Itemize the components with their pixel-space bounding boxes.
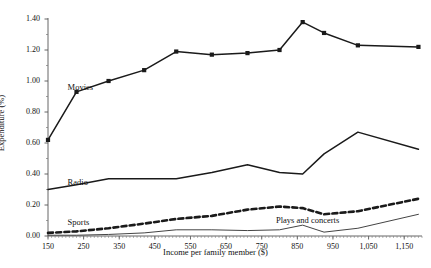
x-tick-label: 650 (206, 242, 246, 251)
y-axis-title: Expenditure (%) (0, 95, 6, 151)
data-point-marker (301, 20, 305, 24)
x-tick-label: 150 (28, 242, 68, 251)
series-label-sports: Sports (68, 217, 90, 227)
plot-area (0, 0, 431, 268)
data-point-marker (106, 79, 110, 83)
x-tick-label: 1,050 (349, 242, 389, 251)
y-tick-label: 1.20 (14, 45, 40, 54)
data-point-marker (322, 31, 326, 35)
axis-lines (48, 18, 422, 236)
data-point-marker (416, 45, 420, 49)
series-line-movies (48, 22, 418, 140)
data-point-marker (245, 51, 249, 55)
x-tick-label: 850 (277, 242, 317, 251)
data-point-marker (142, 68, 146, 72)
x-tick-label: 250 (64, 242, 104, 251)
x-tick-label: 550 (170, 242, 210, 251)
x-tick-label: 350 (99, 242, 139, 251)
data-point-marker (174, 49, 178, 53)
series-label-movies: Movies (68, 82, 94, 92)
y-tick-label: 1.00 (14, 76, 40, 85)
y-tick-label: 0.00 (14, 231, 40, 240)
expenditure-line-chart: Expenditure (%) Income per family member… (0, 0, 431, 268)
series-label-radio: Radio (68, 177, 88, 187)
data-point-marker (356, 43, 360, 47)
x-tick-label: 950 (313, 242, 353, 251)
data-point-marker (277, 48, 281, 52)
y-tick-label: 1.40 (14, 14, 40, 23)
y-tick-label: 0.60 (14, 138, 40, 147)
series-label-plays-and-concerts: Plays and concerts (276, 215, 339, 225)
x-tick-label: 450 (135, 242, 175, 251)
series-line-plays-and-concerts (48, 214, 418, 235)
series-line-radio (48, 132, 418, 189)
data-point-marker (46, 138, 50, 142)
series-line-sports (48, 199, 418, 233)
y-tick-label: 0.80 (14, 107, 40, 116)
x-tick-label: 1,150 (384, 242, 424, 251)
x-tick-label: 750 (242, 242, 282, 251)
data-point-marker (210, 53, 214, 57)
y-tick-label: 0.40 (14, 169, 40, 178)
y-tick-label: 0.20 (14, 200, 40, 209)
